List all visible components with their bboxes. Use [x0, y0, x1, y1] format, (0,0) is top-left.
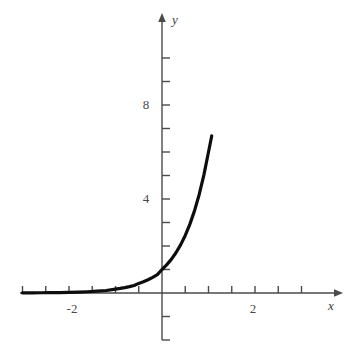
y-tick-label-4: 4 [143, 191, 150, 206]
x-tick-label-2: 2 [250, 301, 257, 316]
x-tick-label-neg2: -2 [67, 301, 78, 316]
x-axis-label: x [327, 298, 334, 313]
exponential-function-plot: -2 2 4 8 x y [0, 0, 354, 360]
y-axis-label: y [170, 12, 178, 27]
y-tick-label-8: 8 [143, 97, 150, 112]
plot-background [0, 0, 354, 360]
figure-container: -2 2 4 8 x y [0, 0, 354, 360]
